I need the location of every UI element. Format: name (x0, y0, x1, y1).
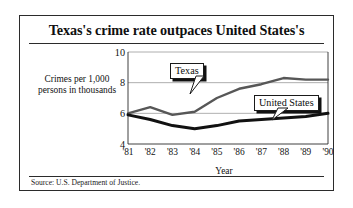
x-axis-title: Year (118, 166, 330, 176)
x-tick-labels: '81'82'83'84'85'86'87'88'89'90 (122, 147, 333, 157)
title-divider (29, 43, 324, 44)
y-axis-caption: Crimes per 1,000 persons in thousands (34, 74, 120, 95)
x-tick-label: '82 (145, 147, 156, 157)
figure-frame: Texas's crime rate outpaces United State… (19, 15, 334, 191)
x-tick-label: '84 (189, 147, 200, 157)
x-tick-label: '85 (211, 147, 222, 157)
x-tick-label: '90 (322, 147, 333, 157)
y-tick-label: 10 (115, 47, 125, 58)
x-tick-label: '86 (234, 147, 245, 157)
x-tick-label: '87 (256, 147, 267, 157)
y-tick-label: 6 (120, 108, 125, 119)
x-tick-label: '81 (122, 147, 133, 157)
page-title: Texas's crime rate outpaces United State… (20, 22, 333, 39)
source-note: Source: U.S. Department of Justice. (31, 178, 140, 187)
figure-page: Texas's crime rate outpaces United State… (0, 0, 353, 208)
x-tick-label: '83 (167, 147, 178, 157)
source-divider (29, 176, 324, 177)
x-tick-label: '88 (278, 147, 289, 157)
series-line-united-states (128, 113, 328, 128)
callout-texas: Texas (170, 63, 204, 79)
callout-united-states: United States (254, 95, 319, 111)
y-tick-labels: 46810 (115, 47, 125, 150)
x-tick-label: '89 (300, 147, 311, 157)
y-tick-label: 8 (120, 77, 125, 88)
